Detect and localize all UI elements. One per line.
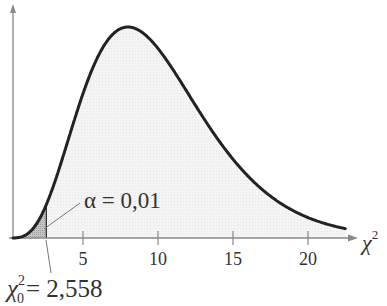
tick-label-20: 20 bbox=[299, 249, 317, 269]
tick-label-10: 10 bbox=[149, 249, 167, 269]
crit-leader-line bbox=[46, 240, 51, 273]
x-axis-arrow-icon bbox=[348, 235, 358, 242]
x-axis-label: χ2 bbox=[360, 227, 378, 255]
alpha-label: α = 0,01 bbox=[84, 188, 161, 213]
chi-square-chart: 5 10 15 20 α = 0,01 χ2 χ20= 2,558 bbox=[0, 0, 387, 306]
y-axis-arrow-icon bbox=[10, 4, 16, 13]
tick-label-5: 5 bbox=[79, 249, 88, 269]
critical-value-label: χ20= 2,558 bbox=[5, 273, 103, 306]
tick-label-15: 15 bbox=[224, 249, 242, 269]
